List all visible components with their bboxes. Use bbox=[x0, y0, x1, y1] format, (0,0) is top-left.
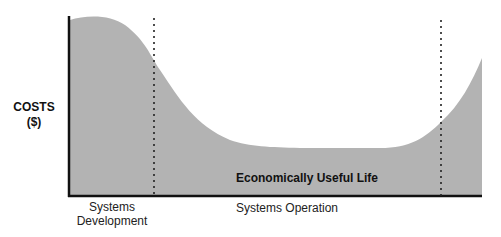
systems-development-label-line2: Development bbox=[70, 214, 154, 228]
systems-development-label-line1: Systems bbox=[70, 200, 154, 214]
y-axis-label-costs: COSTS bbox=[4, 100, 64, 115]
systems-development-label: Systems Development bbox=[70, 200, 154, 228]
systems-operation-label: Systems Operation bbox=[236, 201, 386, 215]
y-axis-label-unit: ($) bbox=[4, 115, 64, 130]
cost-curve-area bbox=[70, 16, 482, 196]
economically-useful-life-label: Economically Useful Life bbox=[236, 171, 378, 185]
y-axis-label: COSTS ($) bbox=[4, 100, 64, 130]
